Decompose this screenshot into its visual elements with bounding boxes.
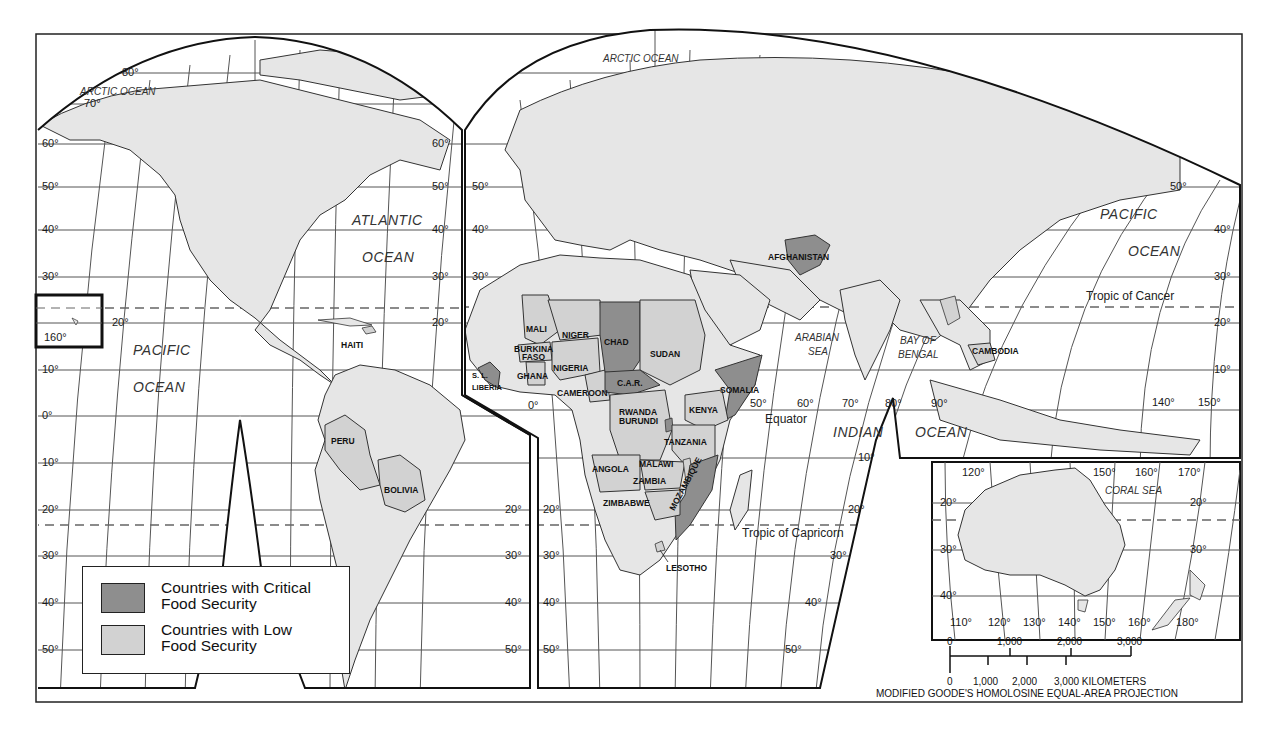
deg-lon-90: 90° [931, 398, 948, 409]
deg-west-40s: 40° [42, 597, 59, 608]
legend-critical-line1: Countries with Critical [161, 580, 311, 596]
deg-er-50: 50° [1170, 181, 1187, 192]
scale-mi-3000: 3,000 [1117, 636, 1142, 647]
scale-mi-2000: 2,000 [1057, 636, 1082, 647]
tropic-of-cancer-label: Tropic of Cancer [1086, 290, 1174, 302]
pacific-east-label-1: PACIFIC [1100, 207, 1158, 221]
tropic-of-capricorn-label: Tropic of Capricorn [742, 527, 844, 539]
label-cameroon: CAMEROON [557, 389, 608, 398]
deg-aus-180: 180° [1176, 617, 1199, 628]
critical-swatch [101, 583, 145, 613]
label-burundi: BURUNDI [619, 417, 658, 426]
deg-afr-50s: 50° [785, 644, 802, 655]
label-peru: PERU [331, 437, 355, 446]
atlantic-label-2: OCEAN [362, 250, 414, 264]
scale-km-2000: 2,000 [1012, 676, 1037, 687]
label-ghana: GHANA [517, 372, 548, 381]
deg-af-50: 50° [472, 181, 489, 192]
projection-label: MODIFIED GOODE'S HOMOLOSINE EQUAL-AREA P… [876, 688, 1178, 699]
deg-wr-50: 50° [432, 181, 449, 192]
deg-lon-140: 140° [1152, 397, 1175, 408]
deg-west-50s: 50° [42, 644, 59, 655]
indian-ocean-label-2: OCEAN [915, 425, 967, 439]
scale-km-1000: 1,000 [973, 676, 998, 687]
label-liberia: LIBERIA [472, 384, 502, 392]
label-angola: ANGOLA [592, 465, 629, 474]
deg-wr-20: 20° [432, 317, 449, 328]
deg-west-30: 30° [42, 271, 59, 282]
arctic-ocean-west-label: ARCTIC OCEAN [80, 87, 156, 97]
deg-lon-70: 70° [842, 398, 859, 409]
arabian-sea-label-1: ARABIAN [795, 333, 839, 343]
coral-sea-label: CORAL SEA [1105, 486, 1162, 496]
deg-lon-80: 80° [885, 398, 902, 409]
deg-af-20s: 20° [505, 504, 522, 515]
scale-km-3000: 3,000 KILOMETERS [1054, 676, 1146, 687]
deg-west-0: 0° [42, 410, 53, 421]
deg-wr-60: 60° [432, 138, 449, 149]
arabian-sea-label-2: SEA [808, 347, 828, 357]
bay-of-bengal-label-1: BAY OF [900, 336, 936, 346]
deg-wr-40: 40° [432, 224, 449, 235]
pacific-east-label-2: OCEAN [1128, 244, 1180, 258]
deg-aus-160: 160° [1128, 617, 1151, 628]
deg-er-40: 40° [1214, 224, 1231, 235]
scale-mi-1000: 1,000 [997, 636, 1022, 647]
label-zambia: ZAMBIA [633, 477, 666, 486]
atlantic-label-1: ATLANTIC [352, 213, 423, 227]
deg-er-10: 10° [1214, 364, 1231, 375]
deg-afr-30s: 30° [830, 550, 847, 561]
label-sudan: SUDAN [650, 350, 680, 359]
deg-af-30: 30° [472, 271, 489, 282]
label-tanzania: TANZANIA [664, 438, 707, 447]
deg-aus-120: 120° [988, 617, 1011, 628]
deg-af-30s: 30° [505, 550, 522, 561]
deg-west-20: 20° [112, 317, 129, 328]
deg-af2-30s: 30° [543, 550, 560, 561]
deg-west-30s: 30° [42, 550, 59, 561]
sudan-shape [640, 300, 705, 385]
deg-afr-20s: 20° [848, 504, 865, 515]
label-haiti: HAITI [341, 341, 363, 350]
deg-west-10n: 10° [42, 364, 59, 375]
label-chad: CHAD [604, 338, 629, 347]
deg-west-60: 60° [42, 138, 59, 149]
deg-aus-150-top: 150° [1093, 467, 1116, 478]
deg-af2-50s: 50° [543, 644, 560, 655]
deg-west-20s: 20° [42, 504, 59, 515]
label-sierra-leone: S. L. [472, 372, 488, 380]
deg-af-50s: 50° [505, 644, 522, 655]
low-swatch [101, 625, 145, 655]
deg-er-20: 20° [1214, 317, 1231, 328]
deg-aus-160-top: 160° [1135, 467, 1158, 478]
deg-wr-30: 30° [432, 271, 449, 282]
deg-aus-20-left: 20° [940, 497, 957, 508]
deg-west-10s: 10° [42, 457, 59, 468]
deg-er-30: 30° [1214, 271, 1231, 282]
deg-west-80: 80° [122, 67, 139, 78]
label-afghanistan: AFGHANISTAN [768, 253, 829, 262]
deg-afr-10s: 10° [858, 452, 875, 463]
label-faso: FASO [522, 353, 545, 362]
label-nigeria: NIGERIA [553, 364, 588, 373]
deg-aus-150: 150° [1093, 617, 1116, 628]
label-niger: NIGER [562, 331, 589, 340]
deg-lon-150: 150° [1198, 397, 1221, 408]
label-bolivia: BOLIVIA [384, 486, 418, 495]
deg-lon-60: 60° [797, 398, 814, 409]
label-car: C.A.R. [617, 379, 643, 388]
legend-critical-line2: Food Security [161, 596, 311, 612]
legend-low-line1: Countries with Low [161, 622, 292, 638]
deg-aus-120-top: 120° [962, 467, 985, 478]
label-cambodia: CAMBODIA [972, 347, 1019, 356]
indian-ocean-label-1: INDIAN [833, 425, 883, 439]
deg-aus-130: 130° [1023, 617, 1046, 628]
deg-aus-30-right: 30° [1190, 544, 1207, 555]
label-malawi: MALAWI [639, 460, 673, 469]
label-zimbabwe: ZIMBABWE [603, 499, 650, 508]
deg-af2-20s: 20° [543, 504, 560, 515]
scale-km-0: 0 [947, 676, 953, 687]
deg-af-40: 40° [472, 224, 489, 235]
deg-west-70: 70° [84, 98, 101, 109]
deg-west-50: 50° [42, 181, 59, 192]
